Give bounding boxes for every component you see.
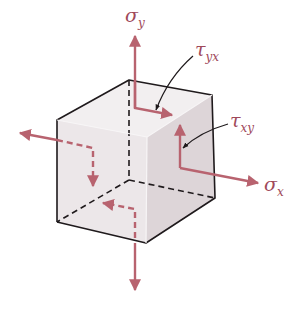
sigma-x-label: σx [264,173,284,199]
tau-yx-label: τyx [195,38,219,64]
sigma-x-left-arrow [20,133,57,140]
tau-xy-label: τxy [230,109,254,135]
stress-element-diagram: σy τyx τxy σx [0,0,304,311]
sigma-y-label: σy [125,4,145,30]
